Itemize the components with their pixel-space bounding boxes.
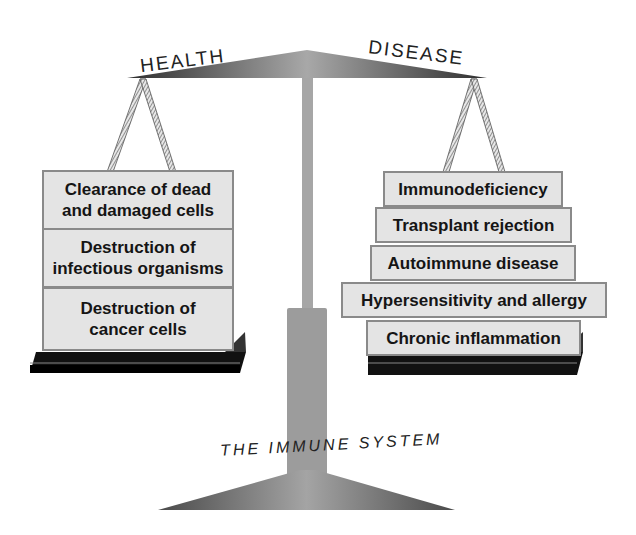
disease-block-autoimmune: Autoimmune disease	[370, 245, 576, 281]
health-block-cancer: Destruction ofcancer cells	[42, 287, 234, 351]
block-line: Destruction of	[80, 238, 195, 257]
disease-block-inflammation: Chronic inflammation	[366, 320, 581, 356]
disease-block-transplant: Transplant rejection	[375, 207, 572, 243]
block-line: infectious organisms	[53, 259, 224, 278]
health-block-dead-cells: Clearance of deadand damaged cells	[42, 170, 234, 230]
health-block-infectious: Destruction ofinfectious organisms	[42, 228, 234, 288]
block-line: and damaged cells	[62, 201, 214, 220]
disease-block-hypersensitivity: Hypersensitivity and allergy	[341, 282, 607, 318]
block-line: cancer cells	[89, 320, 186, 339]
scale-base	[158, 470, 455, 510]
disease-block-immunodeficiency: Immunodeficiency	[383, 171, 563, 207]
scale-stem	[302, 78, 313, 308]
block-line: Destruction of	[80, 299, 195, 318]
block-line: Clearance of dead	[65, 180, 211, 199]
